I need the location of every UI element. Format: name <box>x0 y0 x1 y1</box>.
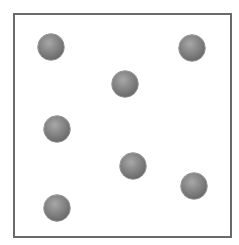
particle-ball <box>112 71 138 97</box>
particle-ball <box>179 35 205 61</box>
particle-ball <box>44 195 70 221</box>
particle-ball <box>38 34 64 60</box>
particle-ball <box>44 116 70 142</box>
particle-ball <box>181 173 207 199</box>
particle-ball <box>120 153 146 179</box>
